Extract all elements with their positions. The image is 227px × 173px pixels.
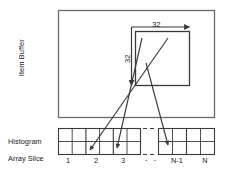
item-buffer-label: Item Buffer bbox=[18, 26, 25, 90]
array-slice-row-label: Array Slice bbox=[8, 155, 44, 162]
tile-square bbox=[136, 32, 190, 86]
histogram-left-block bbox=[59, 129, 141, 155]
array-slice-tick-2: 2 bbox=[87, 156, 105, 165]
array-slice-tick-n-1: N-1 bbox=[165, 156, 189, 165]
mapping-arrow-slice-n-1 bbox=[146, 63, 168, 145]
histogram-row-label: Histogram bbox=[8, 138, 42, 145]
diagram-svg bbox=[0, 0, 227, 173]
histogram-right-block bbox=[159, 129, 215, 155]
array-slice-tick-3: 3 bbox=[114, 156, 132, 165]
array-slice-tick-1: 1 bbox=[59, 156, 77, 165]
array-slice-tick-n: N bbox=[196, 156, 214, 165]
dimension-label-horizontal: 32 bbox=[152, 21, 160, 29]
figure-canvas: Item Buffer 32 32 Histogram Array Slice … bbox=[0, 0, 227, 173]
histogram-gap-dashes bbox=[143, 129, 156, 155]
dimension-label-vertical: 32 bbox=[124, 49, 132, 69]
array-slice-tick-gap: - - bbox=[145, 156, 158, 163]
